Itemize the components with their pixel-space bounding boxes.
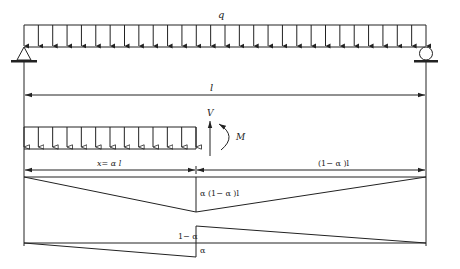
roller-support-icon <box>414 47 438 63</box>
left-segment-label: x= α l <box>97 159 122 168</box>
free-body-segment: V M <box>24 108 246 156</box>
shear-diagram: 1− α α <box>24 226 426 257</box>
loaded-beam: q <box>11 9 438 63</box>
beam-influence-diagram: q l V M x= α l (1− α <box>0 0 460 269</box>
moment-peak-label: α (1− α )l <box>200 189 239 198</box>
shear-label: V <box>207 108 215 118</box>
shear-negative-label: α <box>200 246 206 255</box>
moment-diagram: α (1− α )l <box>24 177 426 212</box>
span-dimension: l <box>25 82 425 95</box>
span-label: l <box>210 82 213 93</box>
segment-dimensions: x= α l (1− α )l <box>25 159 425 174</box>
moment-label: M <box>235 132 246 142</box>
distributed-load-arrows <box>24 25 426 46</box>
shear-line <box>24 226 426 257</box>
segment-load-arrows <box>24 127 196 147</box>
load-label: q <box>218 9 224 20</box>
moment-arc-icon <box>219 124 229 150</box>
pin-support-icon <box>11 47 37 63</box>
shear-positive-label: 1− α <box>178 232 198 241</box>
right-segment-label: (1− α )l <box>318 159 350 168</box>
